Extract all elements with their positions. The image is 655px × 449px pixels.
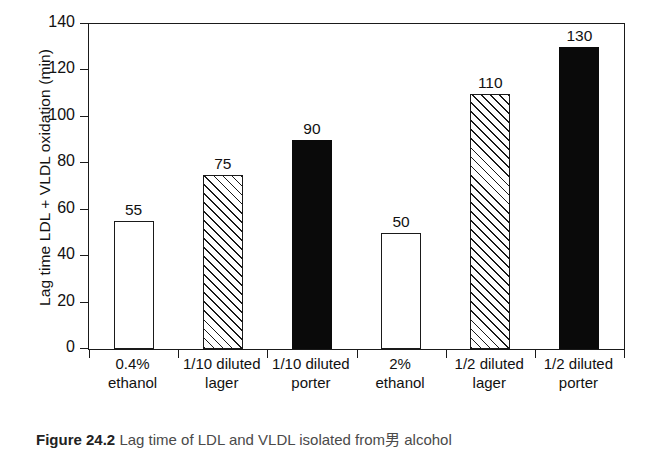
y-tick-label: 100: [48, 106, 75, 124]
y-tick: 60: [80, 209, 89, 210]
y-tick-label: 0: [66, 338, 75, 356]
y-tick-label: 20: [57, 292, 75, 310]
bar-value-label: 110: [478, 74, 503, 92]
bar: 55: [114, 221, 154, 349]
x-category-label: 1/10 dilutedlager: [177, 355, 266, 392]
x-category-line-1: 1/10 diluted: [266, 355, 355, 374]
bar: 90: [292, 140, 332, 349]
bar-value-label: 50: [392, 213, 409, 231]
figure-caption: Figure 24.2 Lag time of LDL and VLDL iso…: [36, 430, 636, 449]
x-category-label: 2%ethanol: [356, 355, 445, 392]
x-category-line-2: porter: [266, 374, 355, 393]
x-category-label: 1/10 dilutedporter: [266, 355, 355, 392]
x-category-line-2: porter: [534, 374, 623, 393]
y-tick: 80: [80, 162, 89, 163]
x-category-line-1: 1/2 diluted: [445, 355, 534, 374]
figure-bar-chart: Lag time LDL + VLDL oxidation (min) 0204…: [0, 0, 655, 449]
plot-area: 020406080100120140 55759050110130: [88, 23, 625, 350]
x-category-label: 0.4%ethanol: [88, 355, 177, 392]
bar: 110: [470, 94, 510, 349]
x-category-label: 1/2 dilutedlager: [445, 355, 534, 392]
y-tick-label: 120: [48, 59, 75, 77]
y-tick: 140: [80, 23, 89, 24]
y-tick: 120: [80, 69, 89, 70]
bar-value-label: 75: [214, 155, 231, 173]
x-category-line-2: lager: [177, 374, 266, 393]
caption-text: Lag time of LDL and VLDL isolated from男 …: [119, 431, 451, 448]
x-category-line-1: 2%: [356, 355, 445, 374]
x-category-line-1: 1/10 diluted: [177, 355, 266, 374]
x-category-line-1: 1/2 diluted: [534, 355, 623, 374]
bar: 75: [203, 175, 243, 349]
bar-value-label: 55: [125, 201, 142, 219]
bar: 130: [559, 47, 599, 349]
x-category-line-1: 0.4%: [88, 355, 177, 374]
x-category-line-2: lager: [445, 374, 534, 393]
bar: 50: [381, 233, 421, 349]
y-tick: 100: [80, 116, 89, 117]
bar-value-label: 130: [566, 27, 592, 45]
x-category-label: 1/2 dilutedporter: [534, 355, 623, 392]
x-tick: [624, 349, 625, 358]
y-axis-title: Lag time LDL + VLDL oxidation (min): [30, 0, 60, 355]
y-tick: 40: [80, 255, 89, 256]
y-tick-label: 40: [57, 245, 75, 263]
y-tick-label: 80: [57, 152, 75, 170]
x-category-line-2: ethanol: [356, 374, 445, 393]
y-tick-label: 60: [57, 199, 75, 217]
y-tick-label: 140: [48, 13, 75, 31]
x-category-line-2: ethanol: [88, 374, 177, 393]
bar-value-label: 90: [303, 120, 320, 138]
caption-label: Figure 24.2: [36, 431, 115, 448]
y-tick: 0: [80, 348, 89, 349]
y-tick: 20: [80, 302, 89, 303]
